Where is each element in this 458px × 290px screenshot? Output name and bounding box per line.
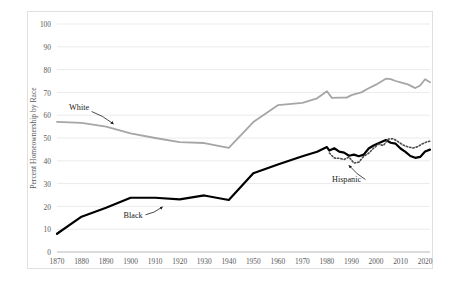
annotation-arrow-black bbox=[146, 207, 163, 215]
x-tick-label-1870: 1870 bbox=[50, 257, 65, 266]
series-line-white bbox=[57, 79, 430, 148]
x-axis-tick-labels: 1870188018901900191019201930194019501960… bbox=[50, 257, 433, 266]
y-tick-label-50: 50 bbox=[44, 134, 52, 143]
y-axis-title-group: Percent Homeownership by Race bbox=[29, 87, 38, 189]
y-tick-label-20: 20 bbox=[44, 203, 52, 212]
y-tick-label-30: 30 bbox=[44, 180, 52, 189]
x-tick-label-1990: 1990 bbox=[344, 257, 359, 266]
y-axis-title: Percent Homeownership by Race bbox=[29, 87, 38, 189]
annotation-arrow-white bbox=[92, 112, 114, 124]
x-tick-label-1880: 1880 bbox=[74, 257, 89, 266]
chart-svg-layer: 0102030405060708090100 18701880189019001… bbox=[0, 0, 458, 290]
gridlines-group bbox=[57, 24, 430, 229]
y-axis-tick-labels: 0102030405060708090100 bbox=[40, 20, 51, 257]
x-tick-label-2020: 2020 bbox=[418, 257, 433, 266]
data-series-group bbox=[57, 79, 430, 234]
x-tick-label-1930: 1930 bbox=[197, 257, 212, 266]
y-tick-label-80: 80 bbox=[44, 66, 52, 75]
x-tick-label-1920: 1920 bbox=[172, 257, 187, 266]
x-tick-label-1910: 1910 bbox=[148, 257, 163, 266]
x-tick-label-1900: 1900 bbox=[123, 257, 138, 266]
annotation-label-hispanic: Hispanic bbox=[332, 175, 361, 184]
x-tick-label-1980: 1980 bbox=[320, 257, 335, 266]
series-line-black bbox=[57, 140, 430, 234]
x-tick-label-2000: 2000 bbox=[369, 257, 384, 266]
x-tick-label-1940: 1940 bbox=[221, 257, 236, 266]
y-tick-label-60: 60 bbox=[44, 111, 52, 120]
annotation-label-black: Black bbox=[124, 211, 144, 220]
x-tick-label-1960: 1960 bbox=[270, 257, 285, 266]
y-tick-label-0: 0 bbox=[47, 248, 51, 257]
y-tick-label-100: 100 bbox=[40, 20, 51, 29]
y-tick-label-70: 70 bbox=[44, 89, 52, 98]
x-tick-label-1970: 1970 bbox=[295, 257, 310, 266]
y-tick-label-40: 40 bbox=[44, 157, 52, 166]
y-tick-label-10: 10 bbox=[44, 225, 52, 234]
x-tick-label-2010: 2010 bbox=[393, 257, 408, 266]
y-tick-label-90: 90 bbox=[44, 43, 52, 52]
x-tick-label-1950: 1950 bbox=[246, 257, 261, 266]
x-tick-label-1890: 1890 bbox=[99, 257, 114, 266]
annotation-label-white: White bbox=[69, 103, 89, 112]
homeownership-chart: 0102030405060708090100 18701880189019001… bbox=[0, 0, 458, 290]
